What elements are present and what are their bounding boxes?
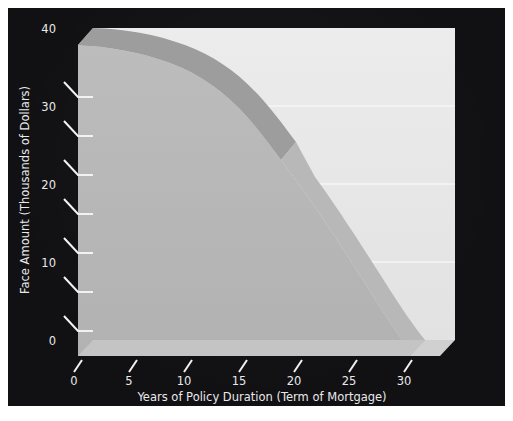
y-tick-label-40: 40 [41, 22, 56, 36]
x-tick-label-5: 5 [125, 374, 132, 388]
three-d-area-chart: 40 30 20 10 0 0 5 10 15 20 25 30 Face Am… [0, 0, 513, 421]
x-tick-label-30: 30 [397, 374, 412, 388]
x-tick-label-25: 25 [342, 374, 357, 388]
x-axis-tick-labels: 0 5 10 15 20 25 30 [70, 374, 411, 388]
y-tick-label-20: 20 [41, 178, 56, 192]
y-tick-label-10: 10 [41, 256, 56, 270]
x-tick-label-20: 20 [287, 374, 302, 388]
y-axis-title: Face Amount (Thousands of Dollars) [18, 86, 32, 294]
x-tick-label-0: 0 [70, 374, 77, 388]
chart-screenshot: 40 30 20 10 0 0 5 10 15 20 25 30 Face Am… [0, 0, 513, 421]
plot-scene [78, 28, 455, 356]
x-tick-label-15: 15 [232, 374, 247, 388]
y-axis-tick-labels: 40 30 20 10 0 [41, 22, 56, 348]
x-tick-label-10: 10 [177, 374, 192, 388]
x-axis-title: Years of Policy Duration (Term of Mortga… [136, 390, 386, 404]
y-tick-label-30: 30 [41, 100, 56, 114]
x-axis-ticks [74, 360, 412, 372]
y-tick-label-0: 0 [49, 334, 56, 348]
area-base-lip [78, 340, 425, 356]
